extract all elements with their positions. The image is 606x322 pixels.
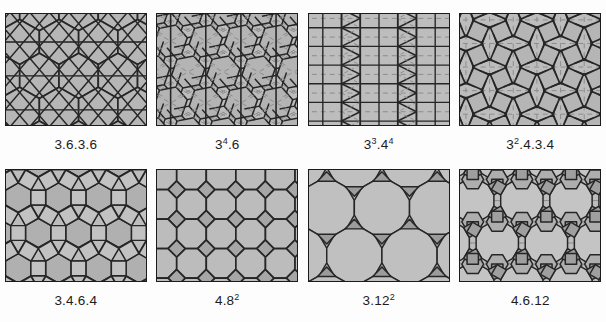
- tiling-label-elongated-triangular-tiling: 33.44: [364, 138, 394, 152]
- tiling-cell-snub-trihexagonal-tiling: 34.6: [156, 13, 299, 152]
- tiling-cell-truncated-hexagonal-tiling: 3.122: [307, 169, 450, 308]
- tiling-label-snub-trihexagonal-tiling: 34.6: [215, 138, 240, 152]
- tiling-label-truncated-hexagonal-tiling: 3.122: [363, 294, 395, 308]
- tiling-cell-elongated-triangular-tiling: 33.44: [307, 13, 450, 152]
- tiling-panel-trihexagonal-tiling: [5, 13, 147, 126]
- tiling-panel-elongated-triangular-tiling: [308, 13, 450, 126]
- tiling-panel-truncated-trihexagonal-tiling: [459, 169, 601, 282]
- tiling-cell-truncated-square-tiling: 4.82: [156, 169, 299, 308]
- tiling-row-top: 3.6.3.634.633.4432.4.3.4: [0, 13, 606, 152]
- tiling-label-trihexagonal-tiling: 3.6.3.6: [54, 138, 97, 152]
- tiling-panel-snub-trihexagonal-tiling: [156, 13, 298, 126]
- tiling-panel-rhombitrihexagonal-tiling: [5, 169, 147, 282]
- tiling-cell-trihexagonal-tiling: 3.6.3.6: [4, 13, 147, 152]
- semiregular-tilings-figure: 3.6.3.634.633.4432.4.3.4 3.4.6.44.823.12…: [0, 0, 606, 322]
- tiling-cell-snub-square-tiling: 32.4.3.4: [459, 13, 602, 152]
- tiling-label-truncated-square-tiling: 4.82: [215, 294, 240, 308]
- tiling-cell-rhombitrihexagonal-tiling: 3.4.6.4: [4, 169, 147, 308]
- tiling-label-snub-square-tiling: 32.4.3.4: [506, 138, 554, 152]
- tiling-row-bottom: 3.4.6.44.823.1224.6.12: [0, 169, 606, 308]
- tiling-panel-truncated-square-tiling: [156, 169, 298, 282]
- tiling-panel-truncated-hexagonal-tiling: [308, 169, 450, 282]
- tiling-label-truncated-trihexagonal-tiling: 4.6.12: [511, 294, 550, 308]
- tiling-cell-truncated-trihexagonal-tiling: 4.6.12: [459, 169, 602, 308]
- tiling-panel-snub-square-tiling: [459, 13, 601, 126]
- tiling-label-rhombitrihexagonal-tiling: 3.4.6.4: [54, 294, 97, 308]
